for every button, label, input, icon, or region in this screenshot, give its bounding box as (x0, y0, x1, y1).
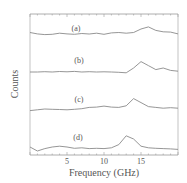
series-label-b: (b) (74, 56, 83, 65)
plot-frame (30, 14, 178, 155)
x-tick-label-5: 5 (65, 157, 69, 166)
trace-b (30, 62, 178, 73)
trace-c (30, 99, 178, 111)
trace-d (30, 136, 178, 151)
series-label-c: (c) (75, 95, 84, 104)
x-axis-label: Frequency (GHz) (69, 167, 139, 178)
trace-a (30, 27, 178, 35)
series-label-a: (a) (72, 24, 81, 33)
chart-canvas (0, 0, 187, 183)
plot-traces (30, 27, 178, 151)
x-tick-label-10: 10 (100, 157, 108, 166)
series-label-d: (d) (73, 133, 82, 142)
x-tick-label-15: 15 (137, 157, 145, 166)
y-axis-label: Counts (9, 70, 20, 98)
